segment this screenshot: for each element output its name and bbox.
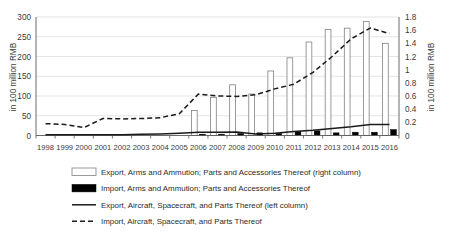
y-axis-left-tick-label: 150 xyxy=(17,72,31,81)
legend-item-label: Import, Aircraft, Spacecraft, and Parts … xyxy=(101,217,263,226)
export-arms-bar-series xyxy=(191,22,388,136)
y-axis-left-tick-label: 100 xyxy=(17,92,31,101)
x-axis-tick-label: 2004 xyxy=(152,143,169,152)
x-axis-tick-label: 2006 xyxy=(190,143,207,152)
bar-import-arms xyxy=(391,130,397,136)
y-axis-right-tick-label: 1.2 xyxy=(405,53,417,62)
x-axis-tick-label: 1999 xyxy=(56,143,73,152)
y-axis-left-tick-label: 0 xyxy=(26,132,31,141)
x-axis-tick-label: 2003 xyxy=(133,143,150,152)
bar-import-arms xyxy=(314,131,320,136)
legend-swatch-export-arms xyxy=(72,168,96,176)
x-axis-tick-label: 2015 xyxy=(362,143,379,152)
bar-export-arms xyxy=(211,97,217,135)
chart-container: 050100150200250300 00.20.40.60.811.21.41… xyxy=(0,0,449,237)
x-axis-tick-label: 2016 xyxy=(381,143,398,152)
legend-item: Import, Aircraft, Spacecraft, and Parts … xyxy=(72,217,263,226)
legend-item-label: Export, Arms and Ammution; Parts and Acc… xyxy=(101,168,361,177)
bar-import-arms xyxy=(372,132,378,135)
bar-export-arms xyxy=(325,30,331,136)
x-axis-tick-label: 2005 xyxy=(171,143,188,152)
bar-export-arms xyxy=(306,42,312,135)
combo-chart: 050100150200250300 00.20.40.60.811.21.41… xyxy=(0,0,449,237)
x-axis-tick-label: 2001 xyxy=(94,143,111,152)
bar-export-arms xyxy=(363,22,369,136)
legend-item: Export, Arms and Ammution; Parts and Acc… xyxy=(72,168,361,177)
y-axis-left-tick-label: 300 xyxy=(17,13,31,22)
y-axis-right-tick-label: 1.4 xyxy=(405,39,417,48)
x-axis-tick-label: 2010 xyxy=(266,143,283,152)
legend-item: Import, Arms and Ammution; Parts and Acc… xyxy=(72,184,311,193)
chart-legend: Export, Arms and Ammution; Parts and Acc… xyxy=(72,168,361,226)
legend-item-label: Export, Aircraft, Spacecraft, and Parts … xyxy=(101,201,308,210)
legend-item-label: Import, Arms and Ammution; Parts and Acc… xyxy=(101,184,311,193)
bar-import-arms xyxy=(352,132,358,135)
x-axis-tick-label: 2002 xyxy=(114,143,131,152)
x-axis-tick-label: 2013 xyxy=(324,143,341,152)
y-axis-right-tick-label: 0.4 xyxy=(405,105,417,114)
x-axis-tick-label: 2014 xyxy=(343,143,360,152)
x-axis-tick-label: 2012 xyxy=(305,143,322,152)
y-axis-right-tick-label: 1.6 xyxy=(405,26,417,35)
bar-export-arms xyxy=(249,94,255,135)
y-axis-left-tick-label: 50 xyxy=(22,112,32,121)
legend-item: Export, Aircraft, Spacecraft, and Parts … xyxy=(72,201,308,210)
y-axis-right-tick-label: 1.8 xyxy=(405,13,417,22)
bar-export-arms xyxy=(268,71,274,136)
y-axis-right-tick-label: 1 xyxy=(405,66,410,75)
y-axis-left-tick-labels: 050100150200250300 xyxy=(17,13,31,141)
import-aircraft-line xyxy=(46,28,390,128)
y-axis-left-tick-label: 200 xyxy=(17,53,31,62)
x-axis-tick-label: 2009 xyxy=(247,143,264,152)
bar-export-arms xyxy=(383,43,389,135)
bar-export-arms xyxy=(287,58,293,136)
x-axis-tick-label: 2008 xyxy=(228,143,245,152)
y-axis-right-tick-label: 0.6 xyxy=(405,92,417,101)
x-axis-tick-label: 1998 xyxy=(37,143,54,152)
x-axis-tick-labels: 1998199920002001200220032004200520062007… xyxy=(37,143,398,152)
bar-export-arms xyxy=(230,85,236,136)
x-axis-tick-label: 2000 xyxy=(75,143,92,152)
y-axis-right-tick-label: 0 xyxy=(405,132,410,141)
y-axis-right-title: in 100 million RMB xyxy=(427,42,436,111)
y-axis-right-tick-label: 0.2 xyxy=(405,118,417,127)
bar-export-arms xyxy=(344,28,350,135)
y-axis-right-tick-labels: 00.20.40.60.811.21.41.61.8 xyxy=(405,13,417,141)
x-axis-tick-label: 2007 xyxy=(209,143,226,152)
y-axis-left-title: in 100 million RMB xyxy=(9,42,18,111)
y-axis-left-tick-label: 250 xyxy=(17,33,31,42)
x-axis-tick-label: 2011 xyxy=(286,143,302,152)
y-axis-right-tick-label: 0.8 xyxy=(405,79,417,88)
legend-swatch-import-arms xyxy=(72,184,96,192)
